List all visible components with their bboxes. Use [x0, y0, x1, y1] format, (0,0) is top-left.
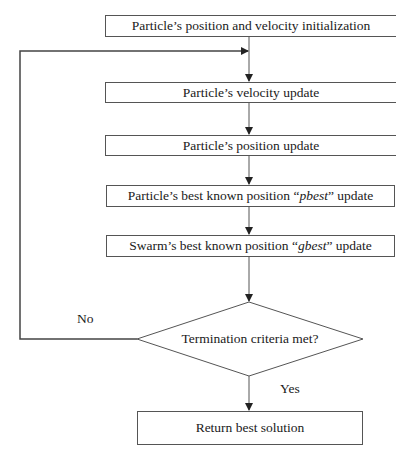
node-gbest-update-label: Swarm’s best known position “gbest” upda… [129, 238, 372, 254]
node-pbest-update-label: Particle’s best known position “pbest” u… [128, 188, 374, 204]
node-pbest-update: Particle’s best known position “pbest” u… [106, 185, 395, 207]
pbest-term: pbest [299, 188, 328, 203]
node-initialization-label: Particle’s position and velocity initial… [132, 18, 370, 34]
node-termination-label: Termination criteria met? [137, 331, 363, 347]
gbest-label-suffix: ” update [326, 238, 371, 253]
node-velocity-update: Particle’s velocity update [105, 82, 396, 103]
node-velocity-update-label: Particle’s velocity update [183, 85, 319, 101]
pbest-label-suffix: ” update [328, 188, 373, 203]
node-return-best-solution: Return best solution [137, 411, 363, 445]
node-return-label: Return best solution [196, 420, 305, 436]
node-position-update-label: Particle’s position update [183, 138, 319, 154]
gbest-label-prefix: Swarm’s best known position “ [129, 238, 298, 253]
connector-lines [0, 0, 410, 459]
node-initialization: Particle’s position and velocity initial… [105, 15, 396, 37]
node-position-update: Particle’s position update [105, 135, 396, 156]
pso-flowchart: Particle’s position and velocity initial… [0, 0, 410, 459]
gbest-term: gbest [298, 238, 327, 253]
edge-label-yes: Yes [280, 381, 300, 397]
node-gbest-update: Swarm’s best known position “gbest” upda… [106, 235, 395, 257]
pbest-label-prefix: Particle’s best known position “ [128, 188, 300, 203]
edge-label-no: No [77, 311, 94, 327]
